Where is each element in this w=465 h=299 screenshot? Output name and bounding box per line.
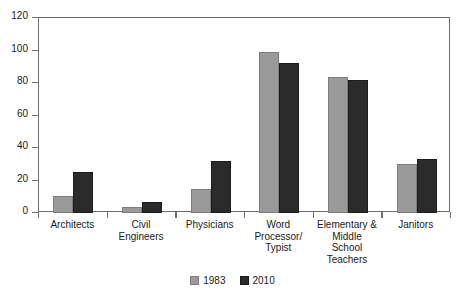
x-axis-category-label: CivilEngineers — [107, 219, 176, 242]
x-axis-category-label-line: Typist — [244, 242, 313, 254]
x-axis-category-label-line: Elementary & — [313, 219, 382, 231]
x-axis-category-label-line: Civil — [107, 219, 176, 231]
swatch-2010-icon — [240, 276, 249, 285]
y-axis-tick-label: 80 — [17, 75, 28, 86]
x-axis-category-label-line: Word — [244, 219, 313, 231]
bar-1983-3 — [259, 52, 279, 213]
bar-chart: 020406080100120 ArchitectsCivilEngineers… — [0, 0, 465, 299]
x-axis-category-label-line: Middle — [313, 231, 382, 243]
y-axis-tick-label: 100 — [11, 43, 28, 54]
x-axis-separator-tick — [313, 212, 314, 218]
y-axis-tick-label: 0 — [22, 205, 28, 216]
legend-item-2010[interactable]: 2010 — [240, 275, 275, 286]
legend-item-1983[interactable]: 1983 — [190, 275, 225, 286]
x-axis-category-label: Physicians — [175, 219, 244, 231]
x-axis-separator-tick — [107, 212, 108, 218]
y-axis-tick-label: 60 — [17, 108, 28, 119]
x-axis-category-label-line: Physicians — [175, 219, 244, 231]
legend-item-label: 2010 — [253, 275, 275, 286]
x-axis-category-label: Architects — [38, 219, 107, 231]
bar-1983-0 — [53, 196, 73, 213]
x-axis-category-label-line: Janitors — [381, 219, 450, 231]
bar-1983-1 — [122, 207, 142, 214]
x-axis-category-label: Elementary &MiddleSchoolTeachers — [313, 219, 382, 265]
bar-2010-0 — [73, 172, 93, 213]
x-axis-category-label-line: Architects — [38, 219, 107, 231]
y-axis-tick-label: 20 — [17, 173, 28, 184]
x-axis-separator-tick — [244, 212, 245, 218]
bar-1983-2 — [191, 189, 211, 213]
bar-1983-4 — [328, 77, 348, 214]
legend-item-label: 1983 — [203, 275, 225, 286]
plot-area — [38, 17, 450, 212]
chart-legend: 19832010 — [0, 275, 465, 286]
x-axis-category-label: Janitors — [381, 219, 450, 231]
bar-2010-5 — [417, 159, 437, 213]
x-axis-separator-tick — [175, 212, 176, 218]
bar-2010-3 — [279, 63, 299, 213]
swatch-1983-icon — [190, 276, 199, 285]
x-axis-category-label: WordProcessor/Typist — [244, 219, 313, 254]
bar-2010-2 — [211, 161, 231, 213]
x-axis-category-label-line: School — [313, 242, 382, 254]
x-axis-separator-tick — [381, 212, 382, 218]
x-axis-end-tick — [450, 212, 451, 218]
y-axis-tick-label: 40 — [17, 140, 28, 151]
x-axis-start-tick — [38, 212, 39, 218]
x-axis-category-label-line: Teachers — [313, 254, 382, 266]
bar-1983-5 — [397, 164, 417, 213]
y-axis-tick-label: 120 — [11, 10, 28, 21]
x-axis-category-label-line: Engineers — [107, 231, 176, 243]
bar-2010-4 — [348, 80, 368, 213]
bar-2010-1 — [142, 202, 162, 213]
x-axis-category-label-line: Processor/ — [244, 231, 313, 243]
